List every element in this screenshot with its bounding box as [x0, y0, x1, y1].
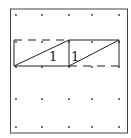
right-rect-label: 1: [71, 49, 79, 64]
left-rect-label: 1: [49, 49, 57, 64]
dot-grid: [15, 14, 120, 128]
frame-border: [11, 9, 128, 133]
left-rect-diagonal: [14, 40, 69, 66]
left-rectangle: [14, 40, 69, 66]
geoboard-diagram: 1 1: [0, 0, 131, 138]
